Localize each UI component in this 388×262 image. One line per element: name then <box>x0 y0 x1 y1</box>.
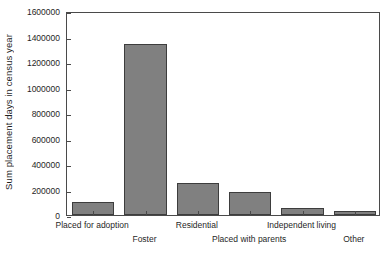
y-axis-tick-label: 800000 <box>32 109 60 119</box>
x-axis-tick-label: Other <box>343 234 364 244</box>
y-axis-tick-label: 200000 <box>32 186 60 196</box>
x-axis-tick-mark <box>146 211 147 215</box>
y-axis-tick-label: 1400000 <box>27 33 60 43</box>
y-axis-tick-label: 600000 <box>32 135 60 145</box>
y-axis-tick-label: 1200000 <box>27 58 60 68</box>
x-axis-tick-label: Placed for adoption <box>56 220 129 230</box>
x-axis-tick-mark <box>250 211 251 215</box>
y-axis-tick-label: 1600000 <box>27 7 60 17</box>
y-axis-tick-mark <box>67 166 71 167</box>
x-axis-tick-label: Residential <box>176 220 218 230</box>
y-axis-tick-mark <box>67 90 71 91</box>
y-axis-tick-mark <box>67 13 71 14</box>
x-axis-tick-mark <box>355 211 356 215</box>
y-axis-tick-mark <box>67 39 71 40</box>
x-axis-tick-label: Independent living <box>267 220 336 230</box>
y-axis-title: Sum placement days in census year <box>0 0 16 224</box>
bars-layer <box>67 13 379 215</box>
y-axis-tick-mark <box>67 115 71 116</box>
x-axis-tick-labels: Placed for adoptionFosterResidentialPlac… <box>0 218 388 262</box>
x-axis-tick-mark <box>303 211 304 215</box>
x-axis-tick-mark <box>93 211 94 215</box>
y-axis-title-text: Sum placement days in census year <box>3 34 14 190</box>
y-axis-tick-mark <box>67 192 71 193</box>
x-axis-tick-mark <box>198 211 199 215</box>
y-axis-tick-label: 1000000 <box>27 84 60 94</box>
plot-area <box>66 12 380 216</box>
y-axis-tick-label: 400000 <box>32 160 60 170</box>
bar-chart: Sum placement days in census year 020000… <box>0 0 388 262</box>
x-axis-tick-label: Placed with parents <box>212 234 286 244</box>
y-axis-tick-mark <box>67 64 71 65</box>
x-axis-tick-label: Foster <box>132 234 156 244</box>
bar <box>124 44 166 215</box>
y-axis-tick-mark <box>67 141 71 142</box>
